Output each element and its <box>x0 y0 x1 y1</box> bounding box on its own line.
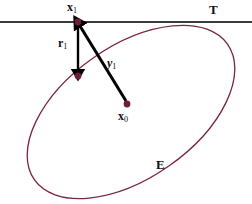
label-y1-subscript: 1 <box>112 62 116 71</box>
label-r1-subscript: 1 <box>63 42 67 51</box>
label-point-x1: x1 <box>67 1 77 13</box>
label-tangent-line: T <box>209 3 218 16</box>
label-ellipse: E <box>156 158 165 171</box>
vector-y1-arrow <box>80 26 126 101</box>
label-point-x0: x0 <box>118 110 128 122</box>
figure-container: x1 T r1 y1 x0 E <box>0 0 252 204</box>
point-x0 <box>124 101 131 108</box>
label-vector-r1: r1 <box>58 37 67 49</box>
point-r1-endpoint <box>75 73 82 80</box>
label-vector-y1: y1 <box>107 57 116 69</box>
diagram-canvas <box>0 0 252 204</box>
point-x1 <box>75 19 82 26</box>
label-x0-subscript: 0 <box>124 115 128 124</box>
label-x1-subscript: 1 <box>73 6 77 15</box>
